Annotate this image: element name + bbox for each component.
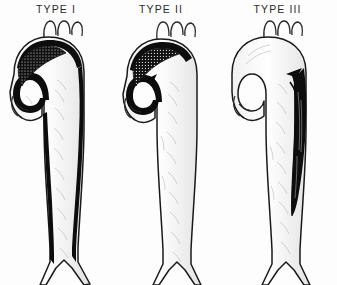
aorta-illustration-type-3	[218, 16, 337, 285]
aortic-dissection-figure: TYPE I	[0, 0, 337, 285]
panel-type-2: TYPE II	[105, 0, 217, 285]
panel-type-3: TYPE III	[218, 0, 337, 285]
arch-vessels-type-3	[264, 21, 303, 38]
panel-label-type-1: TYPE I	[0, 3, 112, 15]
panel-label-type-2: TYPE II	[105, 3, 217, 15]
aorta-illustration-type-1	[0, 16, 112, 285]
aorta-illustration-type-2	[105, 16, 217, 285]
panel-label-type-3: TYPE III	[218, 3, 337, 15]
panel-type-1: TYPE I	[0, 0, 112, 285]
arch-vessels-type-2	[157, 22, 196, 40]
arch-vessels-type-1	[44, 21, 83, 38]
